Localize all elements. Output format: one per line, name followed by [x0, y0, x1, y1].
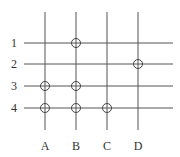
column-label-c: C [103, 139, 111, 153]
horizontal-lines [24, 43, 173, 108]
grid-diagram: 1234 ABCD [0, 0, 180, 157]
column-label-a: A [41, 139, 50, 153]
column-label-d: D [134, 139, 143, 153]
markers [41, 39, 143, 113]
column-label-b: B [72, 139, 80, 153]
row-labels: 1234 [11, 36, 17, 115]
row-label-3: 3 [11, 79, 17, 93]
column-labels: ABCD [41, 139, 143, 153]
row-label-1: 1 [11, 36, 17, 50]
vertical-lines [45, 12, 138, 130]
row-label-4: 4 [11, 101, 17, 115]
row-label-2: 2 [11, 57, 17, 71]
